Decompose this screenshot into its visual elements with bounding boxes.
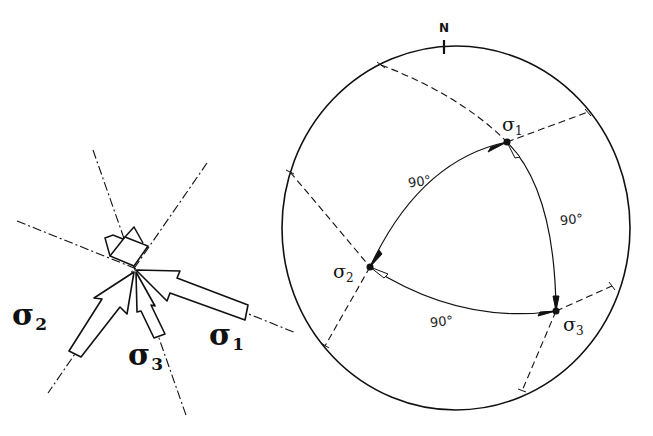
arc-sigma1-sigma2 (370, 142, 507, 267)
sigma-symbol: σ (502, 113, 515, 135)
great-circle-arcs (370, 142, 556, 314)
arc-sigma1-sigma3 (507, 142, 556, 311)
subscript: 3 (576, 324, 584, 338)
slip-arrows (370, 142, 559, 316)
subscript: 2 (35, 314, 47, 334)
sigma-symbol: σ (12, 297, 34, 332)
subscript: 2 (346, 271, 354, 285)
label-sigma2-net: σ2 (333, 262, 354, 284)
subscript: 1 (515, 124, 523, 138)
arrow-sigma2 (69, 272, 134, 357)
dashed-projection-lines (290, 65, 612, 391)
angle-sigma1-sigma3: 90° (559, 212, 583, 227)
sigma-symbol: σ (333, 260, 346, 282)
subscript: 1 (232, 334, 244, 354)
label-sigma2-left: σ2 (12, 300, 47, 333)
stress-points (367, 139, 560, 315)
label-sigma1-net: σ1 (502, 115, 523, 137)
stereonet-primitive-circle (282, 46, 630, 410)
label-sigma3-left: σ3 (128, 340, 163, 373)
sigma-symbol: σ (563, 313, 576, 335)
diagram-canvas (0, 0, 653, 436)
sigma-symbol: σ (209, 317, 231, 352)
subscript: 3 (151, 354, 163, 374)
angle-sigma1-sigma2: 90° (407, 173, 432, 189)
point-sigma3 (553, 308, 560, 315)
angle-sigma2-sigma3: 90° (429, 314, 453, 329)
label-sigma3-net: σ3 (563, 315, 584, 337)
label-sigma1-left: σ1 (209, 320, 244, 353)
point-sigma2 (367, 264, 374, 271)
point-sigma1 (504, 139, 511, 146)
rock-block (105, 227, 148, 266)
arc-sigma2-sigma3 (370, 267, 556, 314)
sigma-symbol: σ (128, 337, 150, 372)
north-label: N (439, 22, 449, 34)
